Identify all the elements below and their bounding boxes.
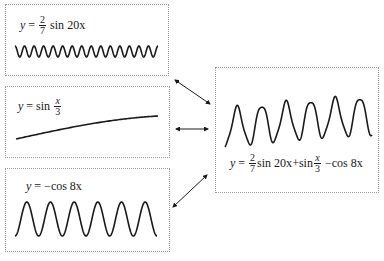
arrow-sin20x-to-sum — [175, 80, 210, 104]
result-box-sum: y = 2 7 sin 20x + sin x 3 −cos 8x — [215, 67, 379, 193]
component-box-sin-x-over-3: y = sin x 3 — [5, 86, 170, 158]
fraction-2-7: 2 7 — [249, 153, 256, 174]
formula-func: sin — [50, 18, 64, 33]
formula-lhs: y — [20, 18, 25, 33]
formula-term1: sin 20x — [257, 156, 292, 171]
formula-func: sin — [36, 99, 50, 114]
formula-arg: 20x — [67, 18, 85, 33]
formula-equals: = — [34, 179, 41, 194]
formula-equals: = — [26, 99, 33, 114]
arrow-negcos8x-to-sum — [173, 175, 207, 207]
fraction-2-7: 2 7 — [39, 15, 46, 36]
formula-body: −cos 8x — [44, 179, 82, 194]
formula-sin-x-3: y = sin x 3 — [18, 96, 62, 117]
component-box-sin20x: y = 2 7 sin 20x — [5, 4, 169, 76]
formula-lhs: y — [18, 99, 23, 114]
fraction-x-3: x 3 — [314, 153, 321, 174]
formula-equals: = — [28, 18, 35, 33]
formula-neg-cos8x: y = −cos 8x — [26, 179, 82, 194]
formula-plus: + — [292, 156, 299, 171]
formula-term2-func: sin — [299, 156, 313, 171]
formula-term3: −cos 8x — [325, 156, 363, 171]
formula-lhs: y — [26, 179, 31, 194]
formula-equals: = — [238, 156, 245, 171]
formula-lhs: y — [230, 156, 235, 171]
formula-sum: y = 2 7 sin 20x + sin x 3 −cos 8x — [230, 153, 363, 174]
component-box-neg-cos8x: y = −cos 8x — [5, 168, 170, 252]
fraction-x-3: x 3 — [54, 96, 61, 117]
formula-sin20x: y = 2 7 sin 20x — [20, 15, 85, 36]
